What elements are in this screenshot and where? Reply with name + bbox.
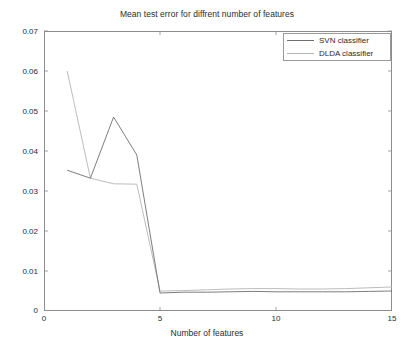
x-axis-ticks [160, 31, 276, 311]
legend-item-dlda[interactable]: DLDA classifier [284, 47, 390, 60]
data-line-dlda-classifier [67, 71, 392, 291]
figure-canvas: Mean test error for diffrent number of f… [0, 0, 414, 349]
data-line-svn-classifier [67, 117, 392, 293]
legend-swatch-svn [287, 40, 314, 41]
y-axis-ticks [44, 31, 392, 271]
legend-swatch-dlda [287, 53, 314, 54]
legend-label-svn: SVN classifier [319, 36, 369, 45]
legend-label-dlda: DLDA classifier [319, 49, 373, 58]
legend-item-svn[interactable]: SVN classifier [284, 34, 390, 47]
chart-legend[interactable]: SVN classifier DLDA classifier [283, 33, 391, 61]
